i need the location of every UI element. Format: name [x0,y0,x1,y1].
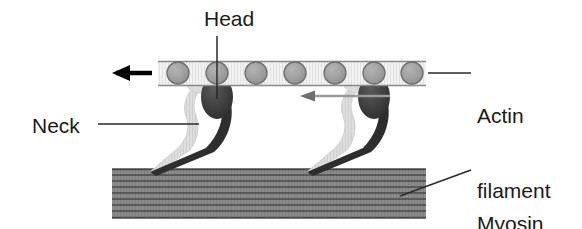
actin-subunit [167,62,189,84]
label-head: Head [204,6,254,31]
actin-subunit [284,62,306,84]
label-actin-line1: Actin [477,103,551,128]
filament-sliding-direction-arrow [112,65,152,81]
actin-subunit [245,62,267,84]
actin-subunit [324,62,346,84]
label-neck: Neck [32,113,80,138]
actin-subunit [363,62,385,84]
actin-subunit [401,62,423,84]
label-myosin-line1: Myosin [477,211,551,229]
diagram-canvas: Head Neck Actin filament Myosin filament [0,0,582,229]
label-myosin-filament: Myosin filament [477,161,551,229]
myosin-filament-shape [112,168,426,219]
